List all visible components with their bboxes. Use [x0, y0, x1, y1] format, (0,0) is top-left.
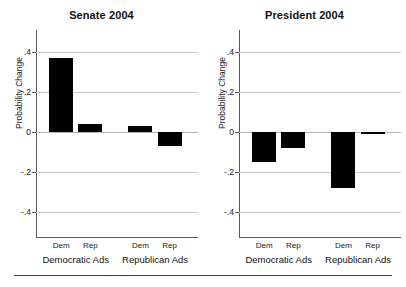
y-tick-label: 0	[26, 127, 31, 137]
y-tick-label: .4	[227, 47, 234, 57]
x-tick-label: Rep	[150, 241, 190, 250]
gridline	[36, 172, 198, 173]
y-tick-mark	[235, 52, 239, 53]
plot-area-president: .4.20-.2-.4	[239, 32, 401, 232]
y-axis-label-senate: Probability Change	[14, 18, 24, 168]
gridline	[239, 212, 401, 213]
bar	[49, 58, 73, 132]
bar	[361, 132, 385, 134]
group-labels-president: Democratic AdsRepublican Ads	[239, 254, 401, 268]
y-tick-mark	[235, 132, 239, 133]
x-tick-label: Rep	[70, 241, 110, 250]
panel-title-senate: Senate 2004	[0, 9, 203, 21]
bottom-divider-rule	[14, 275, 392, 276]
y-tick-mark	[235, 92, 239, 93]
y-tick-label: .2	[227, 87, 234, 97]
x-tick-label: Rep	[273, 241, 313, 250]
bar	[158, 132, 182, 146]
gridline	[239, 92, 401, 93]
panel-container: Senate 2004 Probability Change .4.20-.2-…	[0, 0, 406, 270]
figure-bar-chart-pair: Senate 2004 Probability Change .4.20-.2-…	[0, 0, 406, 287]
y-tick-mark	[32, 52, 36, 53]
y-tick-mark	[32, 92, 36, 93]
y-tick-mark	[235, 212, 239, 213]
y-tick-label: -.2	[21, 167, 31, 177]
panel-title-president: President 2004	[203, 9, 406, 21]
group-labels-senate: Democratic AdsRepublican Ads	[36, 254, 198, 268]
gridline	[36, 52, 198, 53]
y-tick-mark	[235, 172, 239, 173]
bar	[331, 132, 355, 188]
y-tick-label: -.4	[21, 207, 31, 217]
y-tick-mark	[32, 212, 36, 213]
y-tick-label: 0	[229, 127, 234, 137]
bar	[78, 124, 102, 132]
bar	[252, 132, 276, 162]
y-tick-label: -.4	[224, 207, 234, 217]
x-tick-labels-president: DemRepDemRep	[239, 241, 401, 255]
y-axis-label-president: Probability Change	[217, 18, 227, 168]
y-tick-mark	[32, 132, 36, 133]
y-tick-mark	[32, 172, 36, 173]
y-tick-label: -.2	[224, 167, 234, 177]
gridline	[36, 212, 198, 213]
x-axis-spine	[239, 237, 401, 238]
y-tick-label: .2	[24, 87, 31, 97]
y-tick-label: .4	[24, 47, 31, 57]
group-label: Democratic Ads	[234, 254, 324, 265]
x-axis-spine	[36, 237, 198, 238]
x-tick-labels-senate: DemRepDemRep	[36, 241, 198, 255]
bar	[128, 126, 152, 132]
panel-president-2004: President 2004 Probability Change .4.20-…	[203, 0, 406, 270]
x-tick-label: Rep	[353, 241, 393, 250]
gridline	[239, 52, 401, 53]
bar	[281, 132, 305, 148]
group-label: Democratic Ads	[31, 254, 121, 265]
group-label: Republican Ads	[110, 254, 200, 265]
plot-area-senate: .4.20-.2-.4	[36, 32, 198, 232]
panel-senate-2004: Senate 2004 Probability Change .4.20-.2-…	[0, 0, 203, 270]
gridline	[239, 172, 401, 173]
group-label: Republican Ads	[313, 254, 403, 265]
